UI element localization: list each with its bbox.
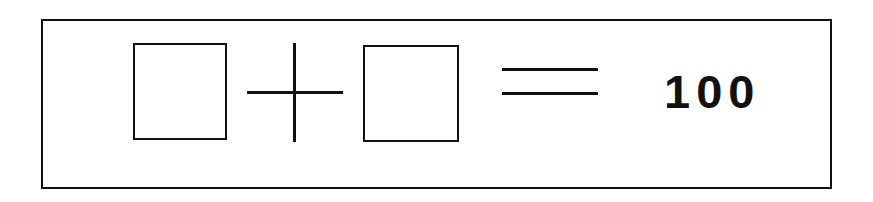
result-value: 100 (664, 68, 760, 115)
operand-2-blank-box[interactable] (363, 45, 459, 142)
operand-1-blank-box[interactable] (133, 43, 227, 140)
